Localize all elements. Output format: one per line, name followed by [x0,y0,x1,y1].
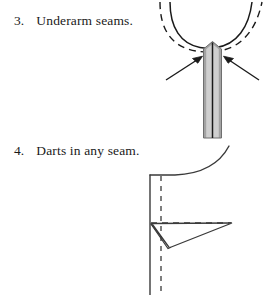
dart-triangle [152,223,233,248]
dart-seam-diagram [0,0,267,303]
page-root: 3. Underarm seams. 4. [0,0,267,303]
hem-curve [150,146,229,175]
